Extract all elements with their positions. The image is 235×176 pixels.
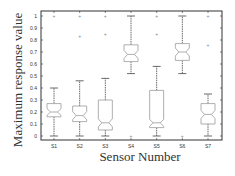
y-tick-label: 0.5	[30, 73, 37, 79]
y-tick-label: 0.3	[30, 97, 37, 103]
x-tick-label: S7	[205, 143, 211, 149]
notched-box-s5	[150, 90, 164, 127]
outlier-marker: +	[155, 13, 158, 19]
outlier-marker: +	[53, 13, 56, 19]
outlier-marker: +	[104, 31, 107, 37]
boxplot-chart: 00.10.20.30.40.50.60.70.80.91S1S2S3S4S5S…	[0, 0, 235, 176]
y-tick-label: 0.7	[30, 49, 37, 55]
x-axis-label: Sensor Number	[80, 149, 200, 165]
outlier-marker: +	[78, 13, 81, 19]
axes-frame	[41, 11, 222, 140]
outlier-marker: +	[78, 33, 81, 39]
y-tick-label: 0.1	[30, 121, 37, 127]
outlier-marker: +	[181, 133, 184, 139]
y-tick-label: 1	[34, 13, 37, 19]
notched-box-s3	[98, 100, 112, 130]
x-tick-label: S1	[51, 143, 57, 149]
outlier-marker: +	[104, 13, 107, 19]
y-tick-label: 0.9	[30, 25, 37, 31]
notched-box-s7	[201, 104, 215, 124]
notched-box-s4	[124, 45, 138, 62]
notched-box-s1	[47, 104, 61, 117]
y-tick-label: 0.6	[30, 61, 37, 67]
outlier-marker: +	[155, 31, 158, 37]
notched-box-s2	[73, 106, 87, 122]
y-tick-label: 0.4	[30, 85, 37, 91]
outlier-marker: +	[207, 42, 210, 48]
outlier-marker: +	[130, 133, 133, 139]
outlier-marker: +	[207, 13, 210, 19]
y-tick-label: 0.8	[30, 37, 37, 43]
y-tick-label: 0.2	[30, 109, 37, 115]
y-axis-label: Maximum response value	[10, 10, 26, 150]
y-tick-label: 0	[34, 133, 37, 139]
